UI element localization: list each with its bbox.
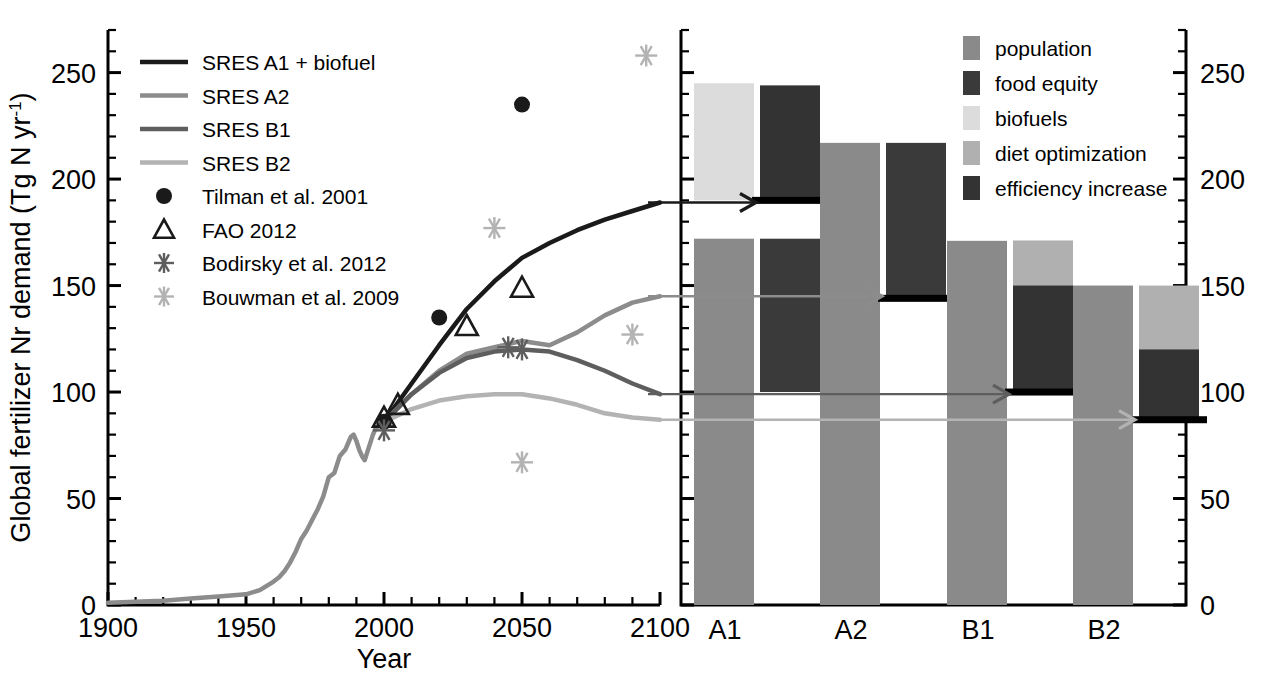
left-y-tick-label: 200: [51, 165, 96, 195]
legend-swatch-population: [963, 36, 980, 60]
right-y-tick-label: 100: [1200, 378, 1245, 408]
left-x-tick-label: 2000: [354, 613, 414, 643]
left-y-tick-label: 250: [51, 59, 96, 89]
scientific-figure: 05010015020025019001950200020502100YearG…: [0, 0, 1267, 678]
asterisk-marker: [511, 451, 533, 473]
asterisk-marker: [497, 336, 519, 358]
legend-swatch-efficiency_increase: [963, 176, 980, 200]
legend-label: SRES A1 + biofuel: [202, 51, 375, 74]
bar-efficiency_increase-B1: [1013, 286, 1073, 392]
legend-label: diet optimization: [995, 142, 1147, 165]
legend-swatch-food_equity: [963, 71, 980, 95]
legend-label: efficiency increase: [995, 177, 1167, 200]
left-x-tick-label: 1900: [78, 613, 138, 643]
series-line-sres-a1-biofuel: [384, 203, 660, 422]
y-axis-title: Global fertilizer Nr demand (Tg N yr-1): [6, 92, 37, 542]
point-open-triangle: [511, 277, 533, 297]
figure-root: 05010015020025019001950200020502100YearG…: [0, 0, 1267, 678]
bar-population-A1: [694, 239, 754, 605]
legend-label: Tilman et al. 2001: [202, 185, 368, 208]
legend-swatch-circle: [156, 188, 172, 204]
legend-label: population: [995, 37, 1092, 60]
left-x-tick-label: 2050: [492, 613, 552, 643]
asterisk-marker: [635, 45, 657, 67]
bar-food-equity-A1: [760, 239, 820, 392]
baseline-marker-B2: [1131, 416, 1207, 423]
series-line-historical: [108, 422, 384, 603]
bar-diet-optimization-B2: [1139, 286, 1199, 350]
right-y-tick-label: 200: [1200, 165, 1245, 195]
left-x-tick-label: 1950: [216, 613, 276, 643]
legend-label: food equity: [995, 72, 1098, 95]
left-axis-frame: [108, 30, 660, 605]
right-x-tick-label-A1: A1: [708, 615, 741, 645]
legend-label: SRES A2: [202, 85, 290, 108]
right-x-tick-label-A2: A2: [834, 615, 867, 645]
baseline-marker-A2: [878, 295, 954, 302]
asterisk-marker: [154, 287, 174, 307]
asterisk-marker: [483, 217, 505, 239]
asterisk-marker: [154, 253, 174, 273]
baseline-marker-B1: [1005, 389, 1081, 396]
legend-label: Bouwman et al. 2009: [202, 286, 399, 309]
legend-label: SRES B1: [202, 118, 291, 141]
left-y-tick-label: 50: [66, 485, 96, 515]
right-y-tick-label: 150: [1200, 272, 1245, 302]
left-x-tick-label: 2100: [630, 613, 690, 643]
right-x-tick-label-B1: B1: [961, 615, 994, 645]
point-filled-circle: [431, 310, 447, 326]
legend-label: biofuels: [995, 107, 1067, 130]
legend-label: FAO 2012: [202, 219, 297, 242]
left-y-tick-label: 150: [51, 272, 96, 302]
asterisk-marker: [621, 324, 643, 346]
bar-diet-optimization-B1: [1013, 241, 1073, 286]
legend-swatch-triangle: [154, 220, 174, 238]
right-x-tick-label-B2: B2: [1087, 615, 1120, 645]
left-x-axis-title: Year: [357, 644, 412, 674]
legend-swatch-diet_optimization: [963, 141, 980, 165]
bar-population-B2: [1073, 286, 1133, 605]
legend-label: SRES B2: [202, 152, 291, 175]
right-bars: A1A2B1B2: [694, 83, 1207, 645]
legend-label: Bodirsky et al. 2012: [202, 252, 386, 275]
left-y-tick-label: 100: [51, 378, 96, 408]
point-filled-circle: [514, 97, 530, 113]
legend-swatch-biofuels: [963, 106, 980, 130]
right-y-tick-label: 0: [1200, 591, 1215, 621]
bar-biofuels-A1: [694, 83, 754, 200]
right-legend: populationfood equitybiofuelsdiet optimi…: [963, 36, 1167, 200]
right-y-tick-label: 250: [1200, 59, 1245, 89]
bar-efficiency_increase-A1: [760, 85, 820, 200]
left-panel: 05010015020025019001950200020502100: [51, 30, 690, 643]
series-line-sres-b2: [384, 394, 660, 422]
bar-population-A2: [820, 143, 880, 605]
x-axis-label: Year: [357, 644, 412, 674]
bar-population-B1: [947, 241, 1007, 605]
baseline-marker-A1: [752, 197, 828, 204]
left-legend: SRES A1 + biofuelSRES A2SRES B1SRES B2Ti…: [140, 51, 399, 309]
right-y-tick-label: 50: [1200, 485, 1230, 515]
y-axis-label: Global fertilizer Nr demand (Tg N yr-1): [6, 92, 37, 542]
bar-food-equity-A2: [886, 143, 946, 298]
